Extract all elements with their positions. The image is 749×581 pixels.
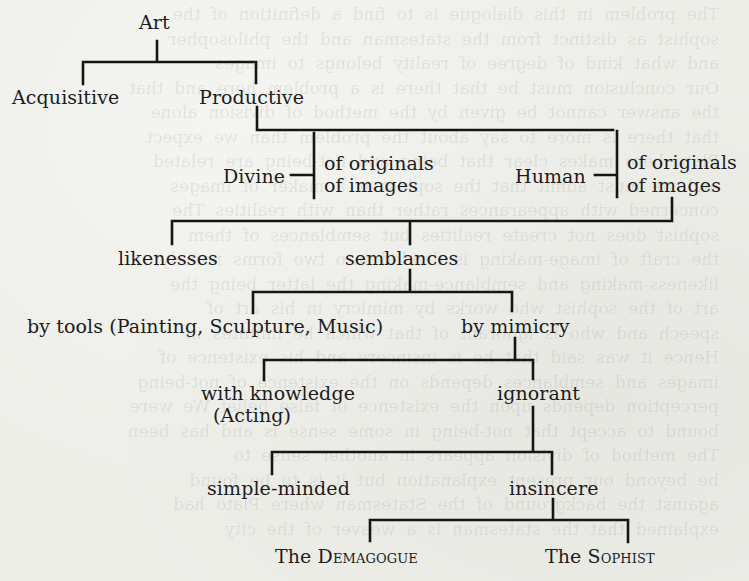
node-divine-images: of images xyxy=(324,175,418,195)
node-productive: Productive xyxy=(199,87,304,107)
demagogue-name: Demagogue xyxy=(318,545,418,567)
sophist-article: The xyxy=(545,545,581,567)
node-semblances: semblances xyxy=(345,248,458,268)
connector-human-images xyxy=(172,198,672,244)
node-human-images: of images xyxy=(627,175,721,195)
node-likenesses: likenesses xyxy=(118,248,218,268)
node-acting: (Acting) xyxy=(213,405,291,425)
node-human: Human xyxy=(515,166,586,186)
sophist-name: Sophist xyxy=(588,545,655,567)
node-divine-originals: of originals xyxy=(324,153,434,173)
node-art: Art xyxy=(139,12,170,32)
connector-insincere xyxy=(370,499,628,542)
node-with-knowledge: with knowledge xyxy=(201,383,355,403)
connector-semblances xyxy=(253,270,512,313)
connector-productive xyxy=(257,107,613,130)
node-by-mimicry: by mimicry xyxy=(461,316,570,336)
connector-mimicry xyxy=(264,338,533,380)
node-simple-minded: simple-minded xyxy=(207,478,350,498)
node-by-tools: by tools (Painting, Sculpture, Music) xyxy=(27,316,383,336)
node-divine: Divine xyxy=(223,166,285,186)
node-ignorant: ignorant xyxy=(497,383,580,403)
node-acquisitive: Acquisitive xyxy=(12,87,119,107)
connector-art xyxy=(83,41,256,84)
node-human-originals: of originals xyxy=(627,152,737,172)
node-insincere: insincere xyxy=(509,478,599,498)
demagogue-article: The xyxy=(275,545,311,567)
node-demagogue: The Demagogue xyxy=(275,546,418,566)
connector-ignorant xyxy=(272,407,552,474)
connector-human xyxy=(595,131,617,197)
node-sophist: The Sophist xyxy=(545,546,655,566)
connector-divine xyxy=(291,133,314,198)
book-page: The problem in this dialogue is to find … xyxy=(0,0,749,581)
